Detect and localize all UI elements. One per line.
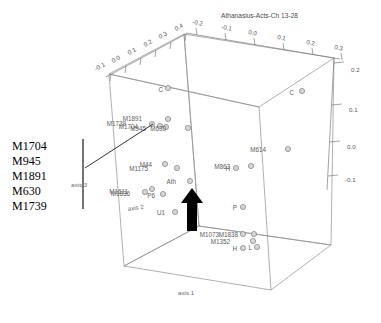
data-point-marker [160,191,165,196]
axis-3-tick-2 [140,58,141,65]
data-point-marker [299,88,304,93]
data-point-marker [185,125,190,130]
axis-1-tick-0 [334,62,344,63]
axis-3-tick-label-5: 0.4 [173,21,184,31]
axis-2-tick-label-4: 0.2 [306,38,316,46]
data-point-label: M1175 [129,165,148,172]
data-point: C [289,88,304,96]
data-point-label: P [233,204,237,211]
data-point-label: P6 [147,192,155,199]
data-point-marker [240,231,245,236]
callout-label-4: M1739 [12,199,47,213]
data-point: U1 [157,209,178,216]
data-point-marker [251,231,256,236]
data-point-marker [174,165,179,170]
data-point: M614 [250,146,290,153]
axis-3-tick-label-0: -0.1 [93,60,106,71]
data-point-marker [250,238,255,243]
data-point-label: H [225,165,230,172]
data-point: M1838 [219,231,257,238]
data-point-label: M1836 [111,190,131,197]
cube-edge-front-right [259,107,271,290]
cube-mid-horizontal [109,171,259,182]
callout-label-2: M1891 [12,169,47,183]
axis-1-tick-3 [328,175,338,176]
axis-2-tick-label-1: -0.1 [221,23,233,32]
axis-2-tick-label-3: 0.1 [277,33,287,41]
data-point: P [233,204,246,211]
axis-2-tick-0 [196,28,197,35]
data-point-marker [172,209,177,214]
data-point-label: C [289,89,294,96]
data-point: M1836 [111,189,148,197]
axis-2-tick-2 [254,38,255,45]
data-point: M1891 [123,115,171,122]
axis-1-tick-label-0: 0.2 [351,66,360,73]
axis-3-tick-label-4: 0.3 [157,29,168,39]
axis-1-tick-label-1: 0.1 [349,106,358,113]
axis-3-tick-label-3: 0.2 [142,37,153,47]
data-point: M630 [150,125,190,132]
axis-3-title: axis 3 [71,181,88,188]
axis-3-group: -0.1 0.0 0.1 0.2 0.3 0.4 axis 3 [71,21,186,188]
axis-3-tick-label-1: 0.0 [110,53,121,63]
data-point-label: U1 [157,209,166,216]
axis-1-tick-label-3: -0.1 [345,176,356,183]
data-point-marker [187,178,192,183]
data-point: Ath [167,178,193,185]
data-point-label: C [158,86,163,93]
data-point: M1175 [129,165,179,172]
data-point-label: M614 [250,146,266,153]
axis-2-tick-1 [225,33,226,40]
data-point-marker [248,163,253,168]
callout-label-0: M1704 [12,139,47,153]
data-point-label: H [232,245,237,252]
data-point-marker [149,186,154,191]
axis-3-tick-4 [170,42,171,49]
scatter-plot-3d: -0.1 0.0 0.1 0.2 0.3 0.4 axis 3 -0.2 -0.… [0,0,381,323]
data-point-marker [165,85,170,90]
cube-top-face [109,34,334,107]
plot-title: Athanasius-Acts-Ch 13-28 [221,12,298,19]
data-point: L [248,244,259,251]
data-point-marker [254,244,259,249]
data-point: P6 [147,191,165,199]
axis-2-title: axis 2 [127,203,145,212]
data-point-marker [240,245,245,250]
data-point-marker [240,204,245,209]
axis-2-line [186,33,340,59]
axis-1-tick-2 [330,141,340,142]
axis-2-tick-5 [341,53,342,60]
data-point-marker [162,161,167,166]
data-point: H [232,245,245,252]
axis-2-tick-label-0: -0.2 [192,18,204,27]
data-point-label: M945 [130,125,146,132]
data-point-label: M1352 [211,238,231,245]
axis-1-title: axis 1 [178,289,195,296]
axis-1-tick-label-2: 0.0 [347,143,356,150]
axis-2-tick-3 [283,43,284,50]
callout-label-1: M945 [12,154,41,168]
cube-inner-horizontal-left [109,74,259,107]
data-point-label: M630 [150,125,166,132]
data-point-marker [285,146,290,151]
axis-3-tick-label-2: 0.1 [126,45,137,55]
data-point-label: M1073 [200,231,220,238]
axis-3-tick-3 [155,50,156,57]
axis-2-tick-label-2: 0.0 [248,28,258,36]
data-point-marker [165,116,170,121]
data-point-label: Ath [167,178,177,185]
data-point: H [225,165,238,172]
plot-svg: -0.1 0.0 0.1 0.2 0.3 0.4 axis 3 -0.2 -0.… [0,0,381,323]
data-point-label: M1838 [219,231,239,238]
axis-3-tick-5 [185,34,186,41]
cube-inner-diagonal-left [124,226,199,266]
axis-2-tick-label-5: 0.3 [334,43,344,51]
data-point-label: L [248,244,252,251]
callout-label-3: M630 [12,184,41,198]
cube-edge-front-left [109,74,124,266]
data-point-marker [233,165,238,170]
